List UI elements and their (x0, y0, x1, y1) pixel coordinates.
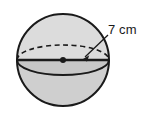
upper-hemisphere-fill (17, 14, 109, 60)
center-point-dot (60, 57, 66, 63)
radius-measurement-label: 7 cm (108, 23, 137, 37)
sphere-radius-diagram: 7 cm (0, 0, 150, 115)
sphere-drawing (0, 0, 150, 115)
